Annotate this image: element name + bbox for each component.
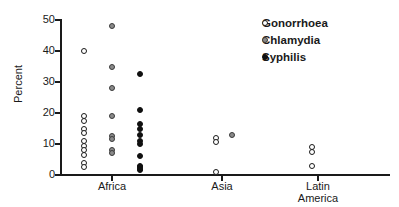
y-tick-mark — [55, 50, 60, 52]
data-point — [81, 48, 87, 54]
data-point — [109, 136, 115, 142]
y-tick-mark — [55, 112, 60, 114]
y-tick-label: 40 — [30, 45, 55, 56]
data-point — [81, 152, 87, 158]
legend-label: Chlamydia — [262, 34, 320, 46]
dot-plot-chart: Percent 01020304050 AfricaAsiaLatin Amer… — [0, 0, 399, 207]
data-point — [137, 153, 143, 159]
legend: Gonorrhoea Chlamydia Syphilis — [262, 14, 328, 65]
y-tick-mark — [55, 143, 60, 145]
data-point — [229, 132, 235, 138]
x-axis-label: Asia — [172, 180, 272, 192]
data-point — [81, 164, 87, 170]
y-axis-title: Percent — [12, 54, 24, 114]
data-point — [81, 130, 87, 136]
legend-label: Gonorrhoea — [262, 17, 328, 29]
legend-item-chlamydia[interactable]: Chlamydia — [262, 31, 328, 48]
y-tick-label-text: 0 — [33, 169, 55, 180]
data-point — [109, 64, 115, 70]
data-point — [109, 23, 115, 29]
data-point — [109, 150, 115, 156]
data-point — [213, 169, 219, 175]
y-tick-label: 10 — [30, 138, 55, 149]
data-point — [309, 163, 315, 169]
y-tick-mark — [55, 81, 60, 83]
data-point — [109, 85, 115, 91]
y-tick-label: 20 — [30, 107, 55, 118]
data-point — [137, 141, 143, 147]
data-point — [109, 113, 115, 119]
data-point — [309, 149, 315, 155]
data-point — [137, 126, 143, 132]
open-circle-icon — [262, 20, 268, 26]
x-axis-label: Africa — [62, 180, 162, 192]
data-point — [213, 139, 219, 145]
y-tick-label: 0 — [30, 169, 55, 180]
y-tick-label-text: 40 — [33, 45, 55, 56]
legend-item-gonorrhoea[interactable]: Gonorrhoea — [262, 14, 328, 31]
data-point — [137, 132, 143, 138]
y-tick-mark — [55, 19, 60, 21]
data-point — [137, 71, 143, 77]
y-tick-label-text: 10 — [33, 138, 55, 149]
y-tick-mark — [55, 174, 60, 176]
gray-circle-icon — [262, 37, 268, 43]
y-axis-line — [60, 19, 62, 176]
x-axis-label: Latin America — [268, 180, 368, 204]
y-tick-label-text: 20 — [33, 107, 55, 118]
filled-circle-icon — [262, 54, 268, 60]
y-tick-label-text: 30 — [33, 76, 55, 87]
y-tick-label: 30 — [30, 76, 55, 87]
legend-item-syphilis[interactable]: Syphilis — [262, 48, 328, 65]
y-tick-label-text: 50 — [33, 14, 55, 25]
x-axis-line — [60, 174, 390, 176]
legend-label: Syphilis — [262, 51, 306, 63]
y-tick-label: 50 — [30, 14, 55, 25]
data-point — [137, 107, 143, 113]
data-point — [137, 167, 143, 173]
data-point — [81, 118, 87, 124]
